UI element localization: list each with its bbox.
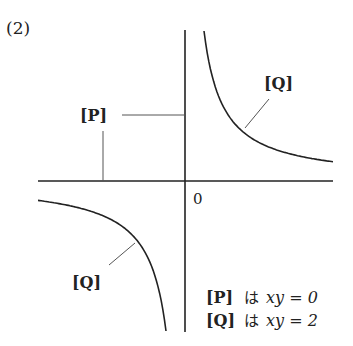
legend-row-p: [P] は xy = 0 <box>206 288 318 307</box>
problem-number: (2) <box>6 18 30 38</box>
label-q-upper: [Q] <box>264 74 293 93</box>
legend-equation-p: xy = 0 <box>266 288 318 307</box>
leader-q-upper <box>245 99 269 128</box>
label-q-lower: [Q] <box>72 273 101 292</box>
legend-particle-q: は <box>244 312 259 330</box>
legend-tag-q: [Q] <box>206 311 235 330</box>
origin-label: 0 <box>193 190 203 208</box>
legend-equation-q: xy = 2 <box>266 311 318 330</box>
legend-particle-p: は <box>244 289 259 307</box>
legend-tag-p: [P] <box>206 288 233 307</box>
leader-q-lower <box>109 243 135 265</box>
legend-row-q: [Q] は xy = 2 <box>206 311 318 330</box>
graph: (2) [P] [Q] [Q] 0 [P] は xy = 0 [Q] は xy … <box>0 0 353 346</box>
curve-q-upper-branch <box>204 31 333 162</box>
label-p: [P] <box>80 106 107 125</box>
curve-q-lower-branch <box>38 200 166 331</box>
